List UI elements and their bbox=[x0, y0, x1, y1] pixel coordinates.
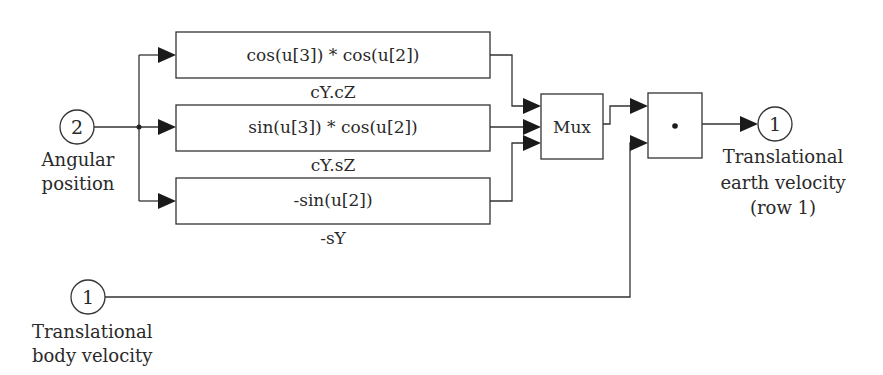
outport-label-line3: (row 1) bbox=[750, 197, 816, 218]
arrow-into-dot-1 bbox=[630, 98, 648, 114]
arrow-into-mux-3 bbox=[523, 135, 541, 151]
outport-label-line2: earth velocity bbox=[720, 172, 846, 193]
fcn-expression: cos(u[3]) * cos(u[2]) bbox=[247, 45, 420, 65]
fcn-block-cy-cz[interactable]: cos(u[3]) * cos(u[2]) cY.cZ bbox=[176, 32, 490, 102]
branch-point bbox=[137, 125, 142, 130]
fcn-label: cY.sZ bbox=[311, 155, 356, 175]
inport-label-line2: body velocity bbox=[32, 345, 153, 366]
inport-number: 2 bbox=[71, 116, 83, 138]
inport-angular-position[interactable]: 2 Angular position bbox=[41, 110, 115, 194]
arrow-into-mux-1 bbox=[523, 98, 541, 114]
fcn-block-neg-sy[interactable]: -sin(u[2]) -sY bbox=[176, 178, 490, 248]
arrow-into-mux-2 bbox=[523, 119, 541, 135]
inport-label-line2: position bbox=[42, 173, 115, 194]
outport-label-line1: Translational bbox=[723, 146, 844, 167]
mux-label: Mux bbox=[553, 117, 591, 137]
arrow-into-fcn1 bbox=[158, 47, 176, 63]
fcn-to-mux-wires bbox=[490, 55, 524, 201]
mux-to-dot-wire bbox=[603, 106, 632, 124]
dot-product-icon bbox=[672, 123, 678, 129]
fcn-expression: -sin(u[2]) bbox=[293, 190, 372, 210]
outport-number: 1 bbox=[769, 113, 781, 135]
mux-block[interactable]: Mux bbox=[541, 94, 603, 159]
inport-label-line1: Angular bbox=[41, 149, 115, 170]
dot-product-block[interactable] bbox=[648, 93, 702, 158]
fcn-expression: sin(u[3]) * cos(u[2]) bbox=[248, 117, 418, 137]
inport-label-line1: Translational bbox=[32, 321, 153, 342]
arrow-into-fcn2 bbox=[158, 119, 176, 135]
block-diagram: 2 Angular position cos(u[3]) * cos(u[2])… bbox=[0, 0, 883, 375]
fcn-label: -sY bbox=[320, 228, 346, 248]
fcn-label: cY.cZ bbox=[310, 82, 355, 102]
arrow-into-dot-2 bbox=[630, 135, 648, 151]
inport-body-velocity[interactable]: 1 Translational body velocity bbox=[32, 280, 153, 366]
arrow-into-fcn3 bbox=[158, 193, 176, 209]
fcn-block-cy-sz[interactable]: sin(u[3]) * cos(u[2]) cY.sZ bbox=[176, 105, 490, 175]
inport-number: 1 bbox=[82, 286, 94, 308]
arrow-into-outport bbox=[740, 116, 758, 132]
